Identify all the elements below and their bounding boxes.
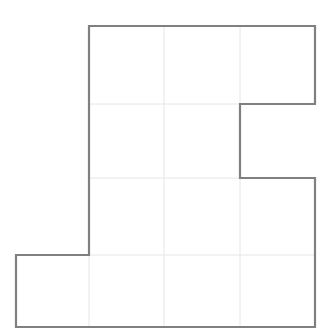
figure-canvas: [0, 0, 336, 333]
polyomino-figure: [0, 0, 336, 333]
polyomino-fill: [16, 26, 315, 327]
